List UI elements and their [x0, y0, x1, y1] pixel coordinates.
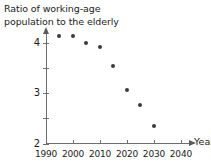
y-tick-3	[43, 93, 49, 94]
chart-figure: Ratio of working-age population to the e…	[0, 0, 211, 165]
x-tick-2010	[100, 140, 101, 144]
x-axis-title: Year	[194, 137, 211, 147]
y-axis-line	[46, 33, 47, 144]
x-tick-label: 2040	[164, 150, 198, 159]
data-point	[125, 88, 129, 92]
data-point	[152, 124, 156, 128]
y-tick-2	[43, 144, 49, 145]
y-tick-label: 3	[26, 88, 40, 98]
x-tick-2030	[154, 140, 155, 144]
y-tick-4	[43, 43, 49, 44]
y-tick-label: 4	[26, 38, 40, 48]
y-tick-2-5	[43, 118, 49, 119]
x-axis-line	[46, 143, 191, 144]
data-point	[111, 64, 115, 68]
x-tick-2020	[127, 140, 128, 144]
data-point	[71, 34, 75, 38]
data-point	[138, 103, 142, 107]
x-tick-2000	[73, 140, 74, 144]
data-point	[84, 41, 88, 45]
y-axis-arrow-icon	[43, 27, 49, 34]
plot-area: Year 432 199020002010202020302040	[0, 0, 211, 165]
y-tick-3-5	[43, 68, 49, 69]
data-point	[98, 45, 102, 49]
y-tick-label: 2	[26, 139, 40, 149]
x-tick-2040	[181, 140, 182, 144]
data-point	[57, 34, 61, 38]
